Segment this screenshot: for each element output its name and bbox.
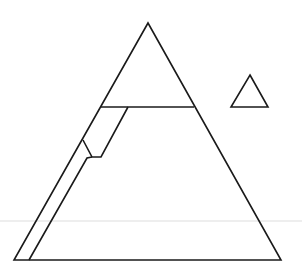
large-triangle (14, 23, 281, 260)
inner-strip-upper (83, 107, 128, 157)
diagram-canvas (0, 0, 302, 274)
pyramid-diagram (0, 0, 302, 274)
inner-strip-lower (29, 157, 92, 260)
small-triangle (231, 75, 268, 107)
